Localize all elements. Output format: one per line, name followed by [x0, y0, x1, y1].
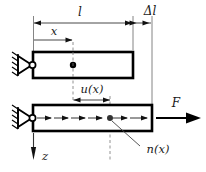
- dimension-x: x: [34, 24, 73, 42]
- bar-load-diagram: l Δl x: [0, 0, 206, 172]
- dimension-u-arrow-left: [74, 98, 81, 103]
- figure-canvas: l Δl x: [0, 0, 206, 172]
- lower-bar: [33, 105, 152, 131]
- dimension-x-arrow-right: [66, 38, 73, 43]
- dimension-delta-arrow-right: [143, 21, 150, 26]
- support-upper-pin: [29, 62, 35, 68]
- dimension-u-arrow-right: [103, 98, 110, 103]
- dimension-x-label: x: [51, 24, 58, 38]
- dimension-delta-label: Δl: [143, 4, 157, 18]
- force-label: F: [171, 96, 181, 110]
- dimension-u: u(x): [74, 82, 111, 102]
- dimension-length-label: l: [78, 5, 82, 19]
- distributed-load-label: n(x): [147, 142, 170, 156]
- z-axis: z: [31, 133, 49, 163]
- z-axis-label: z: [41, 149, 49, 163]
- dimension-u-label: u(x): [81, 82, 104, 96]
- force-arrow-group: F: [156, 96, 201, 124]
- support-lower-pin: [29, 115, 35, 121]
- z-axis-arrow-head: [31, 147, 36, 160]
- dimension-length: l: [34, 5, 132, 25]
- upper-bar: [33, 52, 133, 78]
- lower-bar-point-marker: [107, 115, 113, 121]
- upper-bar-outline: [33, 52, 133, 78]
- dimension-length-arrow-left: [34, 21, 41, 26]
- force-arrow-head: [186, 113, 201, 124]
